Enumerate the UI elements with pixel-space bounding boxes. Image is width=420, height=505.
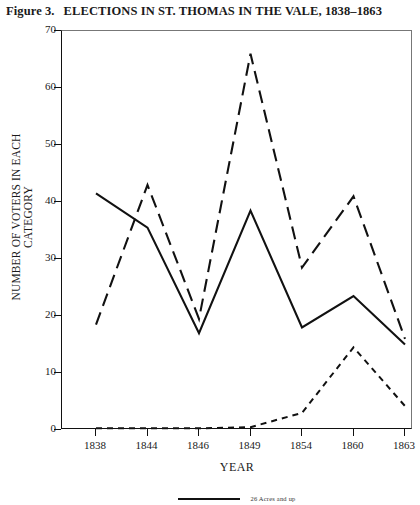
y-axis-tick-mark <box>54 372 61 373</box>
y-axis-tick-labels: 010203040506070 <box>22 0 56 460</box>
x-axis-ticks <box>61 429 413 437</box>
x-axis-title: YEAR <box>61 460 413 475</box>
x-axis-tick-label: 1846 <box>173 439 223 451</box>
x-axis-tick-label: 1838 <box>70 439 120 451</box>
x-axis-tick-labels: 1838184418461849185418601863 <box>61 439 413 455</box>
legend-line-swatch <box>178 498 240 500</box>
chart-legend: 26 Acres and up <box>61 492 413 505</box>
y-axis-tick-mark <box>54 87 61 88</box>
figure-title: Figure 3.ELECTIONS IN ST. THOMAS IN THE … <box>6 4 416 19</box>
x-axis-tick-label: 1854 <box>276 439 326 451</box>
series-canvas <box>62 31 413 430</box>
x-axis-tick-label: 1863 <box>379 439 420 451</box>
x-axis-tick-mark <box>353 429 354 436</box>
series-line <box>96 347 405 428</box>
y-axis-tick-label: 0 <box>30 423 56 434</box>
x-axis-tick-mark <box>147 429 148 436</box>
y-axis-tick-label: 10 <box>30 366 56 377</box>
y-axis-tick-mark <box>54 315 61 316</box>
x-axis-tick-label: 1849 <box>225 439 275 451</box>
figure-root: Figure 3.ELECTIONS IN ST. THOMAS IN THE … <box>0 0 420 505</box>
x-axis-tick-mark <box>250 429 251 436</box>
y-axis-tick-label: 30 <box>30 252 56 263</box>
y-axis-tick-label: 60 <box>30 81 56 92</box>
x-axis-tick-mark <box>95 429 96 436</box>
x-axis-tick-mark <box>198 429 199 436</box>
y-axis-tick-label: 20 <box>30 309 56 320</box>
y-axis-tick-label: 40 <box>30 195 56 206</box>
x-axis-tick-mark <box>301 429 302 436</box>
x-axis-tick-label: 1860 <box>328 439 378 451</box>
series-line <box>96 54 405 339</box>
series-line <box>96 193 405 344</box>
figure-title-text: ELECTIONS IN ST. THOMAS IN THE VALE, 183… <box>64 4 382 18</box>
x-axis-tick-label: 1844 <box>122 439 172 451</box>
y-axis-tick-label: 70 <box>30 24 56 35</box>
y-axis-tick-mark <box>54 30 61 31</box>
y-axis-tick-label: 50 <box>30 138 56 149</box>
legend-label: 26 Acres and up <box>250 495 295 502</box>
y-axis-tick-mark <box>54 258 61 259</box>
x-axis-tick-mark <box>404 429 405 436</box>
y-axis-tick-mark <box>54 201 61 202</box>
legend-item: 26 Acres and up <box>178 495 295 502</box>
plot-area <box>61 30 412 429</box>
y-axis-tick-mark <box>54 144 61 145</box>
y-axis-tick-mark <box>54 429 61 430</box>
